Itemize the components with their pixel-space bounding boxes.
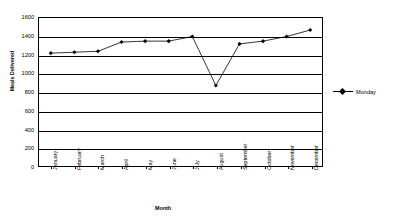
y-tick-label: 400 — [12, 127, 34, 133]
gridline — [39, 56, 322, 57]
x-tick-label: November — [289, 145, 295, 170]
y-tick-label: 600 — [12, 108, 34, 114]
line-chart: Meals Delivered 160014001200100080060040… — [0, 0, 396, 222]
series-monday — [39, 18, 322, 166]
y-tick-label: 0 — [12, 164, 34, 170]
data-point-marker — [119, 40, 123, 44]
gridline — [39, 112, 322, 113]
y-tick-label: 1600 — [12, 14, 34, 20]
x-tick-label: December — [313, 145, 319, 170]
y-axis-tick-labels: 16001400120010008006004002000 — [12, 0, 34, 222]
gridline — [39, 74, 322, 75]
data-point-marker — [143, 39, 147, 43]
x-axis-tick-labels: JanuaryFebruaryMarchAprilMayJuneJulyAugu… — [38, 170, 323, 212]
series-line — [51, 30, 310, 86]
x-tick-label: July — [194, 160, 200, 170]
x-tick-label: May — [147, 160, 153, 170]
legend-marker-icon — [333, 88, 353, 95]
data-point-marker — [237, 42, 241, 46]
x-axis-title: Month — [155, 205, 171, 211]
x-tick-label: June — [171, 158, 177, 170]
plot-area — [38, 17, 323, 167]
legend-label-monday: Monday — [356, 89, 376, 95]
y-tick-label: 1400 — [12, 33, 34, 39]
x-tick-label: February — [76, 148, 82, 170]
y-tick-label: 200 — [12, 145, 34, 151]
chart-legend: Monday — [333, 88, 376, 95]
data-point-marker — [308, 28, 312, 32]
gridline — [39, 131, 322, 132]
data-point-marker — [167, 39, 171, 43]
x-tick-label: October — [266, 151, 272, 170]
data-point-marker — [214, 83, 218, 87]
y-tick-label: 800 — [12, 89, 34, 95]
x-tick-label: August — [218, 153, 224, 170]
gridline — [39, 37, 322, 38]
data-point-marker — [96, 49, 100, 53]
x-tick-label: April — [123, 159, 129, 170]
gridline — [39, 93, 322, 94]
y-tick-label: 1200 — [12, 52, 34, 58]
x-tick-label: January — [52, 151, 58, 170]
y-tick-label: 1000 — [12, 70, 34, 76]
x-tick-label: September — [242, 144, 248, 170]
data-point-marker — [261, 39, 265, 43]
x-tick-label: March — [99, 155, 105, 170]
data-point-marker — [72, 50, 76, 54]
